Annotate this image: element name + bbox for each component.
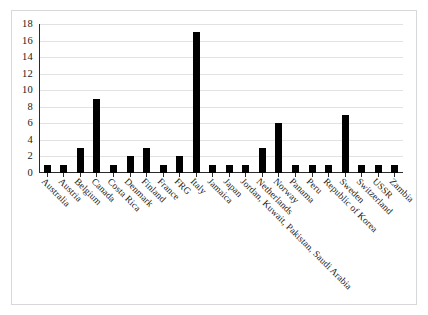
bar-slot	[188, 24, 205, 173]
bar-slot	[238, 24, 255, 173]
bar	[342, 115, 349, 173]
x-label-slot: Denmark	[122, 177, 139, 307]
x-label-slot: Jordan, Kuwait, Pakistan, Saudi Arabia	[238, 177, 255, 307]
bar	[292, 165, 299, 173]
y-axis-tick-label: 14	[22, 52, 33, 63]
bar	[259, 148, 266, 173]
x-label-slot: Norway	[271, 177, 288, 307]
bar	[60, 165, 67, 173]
bar-slot	[204, 24, 221, 173]
x-label-slot: Republic of Korea	[320, 177, 337, 307]
x-label-slot: Sweden	[337, 177, 354, 307]
bar-slot	[105, 24, 122, 173]
bar-slot	[271, 24, 288, 173]
plot-area	[39, 24, 403, 173]
x-label-slot: Peru	[304, 177, 321, 307]
x-label-slot: Switzerland	[353, 177, 370, 307]
x-label-slot: Belgium	[72, 177, 89, 307]
bar	[375, 165, 382, 173]
y-axis-tick-label: 2	[28, 151, 33, 162]
bar-slot	[221, 24, 238, 173]
x-label-slot: FRG	[171, 177, 188, 307]
bar	[309, 165, 316, 173]
x-label-slot: Japan	[221, 177, 238, 307]
x-label-slot: Australia	[39, 177, 56, 307]
y-axis-tick-label: 4	[28, 135, 33, 146]
bar	[358, 165, 365, 173]
bar	[44, 165, 51, 173]
bar-slot	[353, 24, 370, 173]
bar	[242, 165, 249, 173]
y-axis-tick-label: 0	[28, 168, 33, 179]
x-label-slot: Zambia	[386, 177, 403, 307]
x-label-slot: Panama	[287, 177, 304, 307]
bar-slot	[287, 24, 304, 173]
y-axis-tick-label: 16	[22, 35, 33, 46]
x-axis-category-labels: AustraliaAustriaBelgiumCanadaCosta RicaD…	[39, 177, 403, 307]
bar	[209, 165, 216, 173]
bar-slot	[370, 24, 387, 173]
bar-slot	[155, 24, 172, 173]
bar-slot	[386, 24, 403, 173]
bar-slot	[254, 24, 271, 173]
x-label-slot: USSR	[370, 177, 387, 307]
bar	[160, 165, 167, 173]
x-label-slot: Costa Rica	[105, 177, 122, 307]
bar	[325, 165, 332, 173]
bar-slot	[72, 24, 89, 173]
y-axis-tick-label: 8	[28, 102, 33, 113]
bar-slot	[138, 24, 155, 173]
bar	[391, 165, 398, 173]
bar	[127, 156, 134, 173]
bar	[193, 32, 200, 173]
bars-container	[39, 24, 403, 173]
bar-slot	[320, 24, 337, 173]
y-axis-tick-label: 12	[22, 68, 33, 79]
x-label-slot: France	[155, 177, 172, 307]
y-axis-tick-label: 10	[22, 85, 33, 96]
bar-slot	[89, 24, 106, 173]
bar	[275, 123, 282, 173]
x-label-slot: Netherlands	[254, 177, 271, 307]
bar	[143, 148, 150, 173]
bar-slot	[304, 24, 321, 173]
bar	[77, 148, 84, 173]
y-axis-tick-label: 6	[28, 118, 33, 129]
x-label-slot: Italy	[188, 177, 205, 307]
x-label-slot: Finland	[138, 177, 155, 307]
bar	[226, 165, 233, 173]
x-label-slot: Austria	[56, 177, 73, 307]
x-label-slot: Jamaica	[204, 177, 221, 307]
bar-slot	[122, 24, 139, 173]
y-axis-tick-label: 18	[22, 19, 33, 30]
bar	[110, 165, 117, 173]
x-label-slot: Canada	[89, 177, 106, 307]
bar-chart-figure: 024681012141618 AustraliaAustriaBelgiumC…	[0, 0, 428, 315]
bar-slot	[56, 24, 73, 173]
bar	[93, 99, 100, 174]
bar-slot	[39, 24, 56, 173]
bar-slot	[337, 24, 354, 173]
x-axis-category-label: Zambia	[387, 177, 415, 205]
bar-slot	[171, 24, 188, 173]
y-axis-tick-labels: 024681012141618	[0, 24, 36, 173]
bar	[176, 156, 183, 173]
